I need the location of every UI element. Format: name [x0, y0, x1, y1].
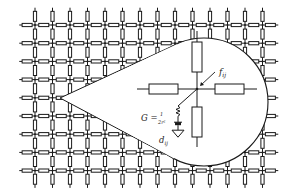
- conductance-label: G =: [141, 113, 158, 123]
- resistor-network-diagram: fij G = 1 2r² dij: [0, 0, 294, 196]
- conductance-numerator: 1: [160, 111, 163, 117]
- diagram-canvas: fij G = 1 2r² dij: [0, 0, 294, 196]
- conductance-denominator: 2r²: [157, 119, 166, 125]
